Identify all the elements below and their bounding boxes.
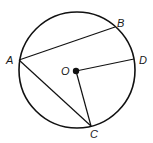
label-o: O — [61, 65, 70, 77]
label-b: B — [117, 17, 124, 29]
label-a: A — [5, 54, 13, 66]
radius-oc — [76, 71, 91, 126]
label-c: C — [90, 128, 98, 140]
label-d: D — [139, 54, 147, 66]
circle-diagram: A B D O C — [0, 0, 153, 143]
center-point-o — [73, 68, 79, 74]
radius-od — [76, 59, 134, 71]
